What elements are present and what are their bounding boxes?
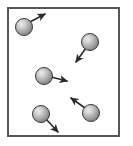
- particle-1-sphere: [16, 19, 33, 36]
- particle-3-sphere: [36, 68, 53, 85]
- particle-5-sphere: [83, 105, 100, 122]
- figure-root: top-left particletop-right particlecente…: [0, 0, 133, 146]
- gas-particles-diagram: top-left particletop-right particlecente…: [0, 0, 133, 146]
- particle-2-sphere: [82, 34, 99, 51]
- particle-4-sphere: [33, 106, 50, 123]
